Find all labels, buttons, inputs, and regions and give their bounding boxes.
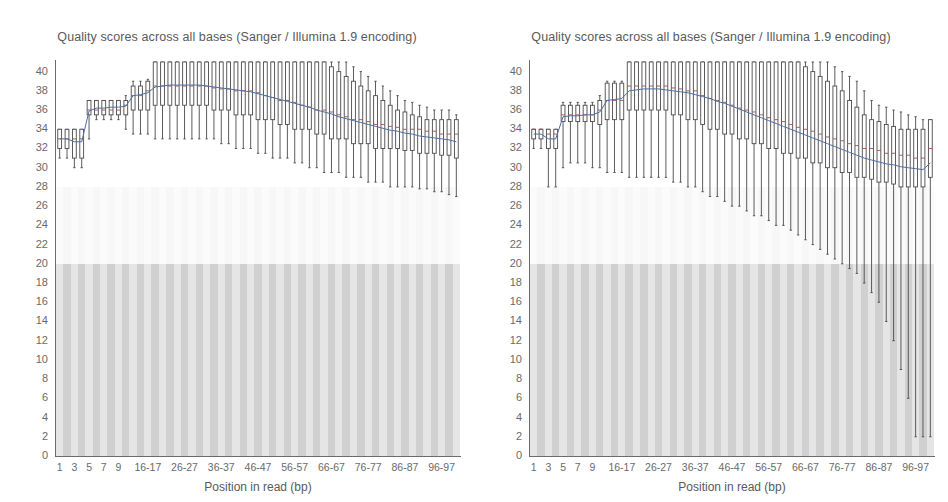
boxplot-box — [212, 62, 216, 139]
y-axis-tick-label: 26 — [10, 200, 48, 211]
boxplot-box — [796, 62, 800, 235]
iqr-box — [374, 96, 378, 149]
boxplot-box — [161, 62, 165, 139]
iqr-box — [352, 81, 356, 143]
boxplot-box — [219, 62, 223, 144]
iqr-box — [366, 91, 370, 144]
y-axis-tick-label: 24 — [484, 219, 522, 230]
boxplot-box — [168, 62, 172, 139]
iqr-box — [708, 62, 712, 129]
iqr-box — [782, 62, 786, 153]
y-axis-tick-label: 40 — [10, 66, 48, 77]
x-axis-line — [529, 456, 935, 457]
y-axis-tick-label: 38 — [10, 85, 48, 96]
boxplot-box — [65, 129, 69, 158]
boxplot-box — [241, 62, 245, 148]
y-axis-tick-label: 8 — [484, 373, 522, 384]
y-axis-tick-label: 22 — [484, 239, 522, 250]
iqr-box — [620, 83, 624, 120]
y-axis-tick-label: 12 — [484, 335, 522, 346]
y-axis-tick-label: 4 — [484, 412, 522, 423]
iqr-box — [568, 105, 572, 121]
iqr-box — [396, 110, 400, 148]
boxplot-box — [256, 62, 260, 153]
iqr-box — [826, 81, 830, 167]
iqr-box — [234, 62, 238, 115]
boxplot-box — [532, 129, 536, 148]
boxplot-box — [352, 67, 356, 178]
boxplot-box — [249, 62, 253, 148]
x-axis-tick-label: 96-97 — [416, 462, 468, 473]
boxplot-box — [664, 62, 668, 177]
boxplot-box — [227, 62, 231, 144]
boxplot-box — [657, 62, 661, 177]
y-axis-tick-label: 14 — [484, 315, 522, 326]
iqr-box — [759, 62, 763, 144]
iqr-box — [701, 62, 705, 124]
x-axis-title: Position in read (bp) — [530, 480, 934, 494]
iqr-box — [440, 120, 444, 156]
iqr-box — [263, 62, 267, 120]
iqr-box — [153, 62, 157, 105]
boxplot-box — [344, 62, 348, 177]
iqr-box — [745, 62, 749, 139]
iqr-box — [870, 120, 874, 180]
iqr-box — [80, 129, 84, 158]
boxplot-box — [131, 81, 135, 134]
y-axis-tick-label: 28 — [484, 181, 522, 192]
boxplot-box — [197, 62, 201, 139]
boxplot-box — [330, 62, 334, 173]
y-axis-tick-label: 34 — [484, 123, 522, 134]
iqr-box — [679, 62, 683, 115]
boxplot-box — [278, 62, 282, 158]
iqr-box — [432, 120, 436, 154]
boxplot-box — [767, 62, 771, 221]
iqr-box — [715, 62, 719, 129]
boxplot-layer — [474, 0, 948, 502]
boxplot-box — [811, 62, 815, 245]
iqr-box — [561, 105, 565, 121]
iqr-box — [344, 76, 348, 138]
y-axis-tick-label: 38 — [484, 85, 522, 96]
boxplot-box — [870, 100, 874, 292]
y-axis-tick-label: 2 — [10, 431, 48, 442]
iqr-box — [359, 86, 363, 144]
boxplot-box — [315, 62, 319, 168]
iqr-box — [774, 62, 778, 148]
chart-panel-left: Quality scores across all bases (Sanger … — [0, 0, 474, 502]
iqr-box — [789, 62, 793, 153]
boxplot-box — [833, 67, 837, 259]
boxplot-box — [591, 102, 595, 167]
boxplot-box — [774, 62, 778, 225]
boxplot-box — [899, 112, 903, 370]
boxplot-box — [440, 110, 444, 192]
boxplot-box — [396, 96, 400, 187]
boxplot-box — [183, 62, 187, 139]
iqr-box — [840, 91, 844, 173]
boxplot-box — [58, 129, 62, 158]
y-axis-tick-label: 0 — [484, 450, 522, 461]
boxplot-box — [848, 76, 852, 268]
x-axis-line — [55, 456, 461, 457]
iqr-box — [308, 62, 312, 129]
y-axis-tick-label: 18 — [484, 277, 522, 288]
boxplot-box — [124, 96, 128, 130]
boxplot-box — [914, 117, 918, 437]
iqr-box — [249, 62, 253, 115]
boxplot-box — [789, 62, 793, 230]
iqr-box — [671, 62, 675, 115]
boxplot-box — [293, 62, 297, 163]
iqr-box — [212, 62, 216, 110]
iqr-box — [168, 62, 172, 105]
iqr-box — [723, 62, 727, 134]
iqr-box — [454, 120, 458, 158]
iqr-box — [293, 62, 297, 129]
boxplot-box — [447, 110, 451, 195]
iqr-box — [833, 86, 837, 168]
iqr-box — [72, 129, 76, 158]
iqr-box — [183, 62, 187, 105]
boxplot-box — [454, 115, 458, 197]
boxplot-box — [403, 100, 407, 186]
boxplot-box — [620, 81, 624, 172]
boxplot-box — [759, 62, 763, 216]
